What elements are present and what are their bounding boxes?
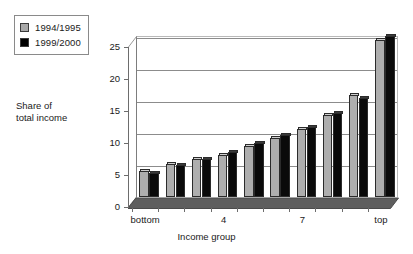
- bar-face: [359, 98, 369, 197]
- bar-face: [176, 165, 186, 197]
- bar-top-cap: [255, 141, 265, 144]
- bar: [297, 129, 307, 197]
- x-axis-tick-label: top: [355, 214, 407, 225]
- bar-face: [333, 113, 343, 197]
- y-axis-tick-mark: [124, 175, 128, 176]
- x-axis-tick-label: 4: [198, 214, 250, 225]
- y-axis-tick-label: 10: [94, 138, 120, 148]
- bar-top-cap: [360, 96, 370, 99]
- bar-top-cap: [177, 163, 187, 166]
- bar-top-cap: [281, 133, 291, 136]
- bar-face: [323, 115, 333, 197]
- bar-face: [202, 159, 212, 197]
- bar-face: [149, 173, 159, 197]
- bar-face: [166, 164, 176, 197]
- y-axis-tick-mark: [124, 47, 128, 48]
- bar: [228, 152, 238, 197]
- x-axis-tick-mark: [368, 208, 369, 212]
- bar-top-cap: [350, 93, 360, 96]
- bar: [349, 95, 359, 197]
- bar: [307, 127, 317, 197]
- bar-face: [297, 129, 307, 197]
- y-axis-tick-label: 20: [94, 74, 120, 84]
- bar: [280, 135, 290, 197]
- bar-face: [244, 146, 254, 197]
- y-axis-tick-label: 25: [94, 42, 120, 52]
- bar-face: [218, 155, 228, 197]
- x-axis-tick-mark: [237, 208, 238, 212]
- bar-series-container: [136, 36, 398, 200]
- bar-chart: 0510152025 bottom47top Income group: [0, 0, 413, 254]
- bar: [323, 115, 333, 197]
- x-axis-tick-label: bottom: [119, 214, 171, 225]
- bar-face: [270, 138, 280, 197]
- bar: [192, 159, 202, 197]
- bar-top-cap: [229, 150, 239, 153]
- bar: [166, 164, 176, 197]
- bar-face: [385, 36, 395, 197]
- y-axis-tick-mark: [124, 79, 128, 80]
- bar-top-cap: [150, 171, 160, 174]
- bar-top-cap: [203, 157, 213, 160]
- bar-face: [307, 127, 317, 197]
- y-axis-tick-mark: [124, 143, 128, 144]
- bar-face: [139, 171, 149, 197]
- bar-face: [254, 143, 264, 197]
- bar: [385, 36, 395, 197]
- bar-top-cap: [386, 34, 396, 37]
- x-axis-tick-mark: [342, 208, 343, 212]
- x-axis-tick-mark: [289, 208, 290, 212]
- x-axis-tick-mark: [184, 208, 185, 212]
- bar: [359, 98, 369, 197]
- x-axis-tick-mark: [158, 208, 159, 212]
- bar: [254, 143, 264, 197]
- bar-face: [349, 95, 359, 197]
- x-axis-tick-mark: [132, 208, 133, 212]
- bar-top-cap: [308, 125, 318, 128]
- y-axis-tick-mark: [124, 207, 128, 208]
- x-axis-tick-label: 7: [276, 214, 328, 225]
- bar: [176, 165, 186, 197]
- y-axis-tick-label: 5: [94, 170, 120, 180]
- y-axis-tick-label: 15: [94, 106, 120, 116]
- x-axis-tick-mark: [315, 208, 316, 212]
- x-axis-tick-mark: [211, 208, 212, 212]
- bar: [139, 171, 149, 197]
- x-axis-title: Income group: [0, 231, 413, 242]
- bar: [202, 159, 212, 197]
- bar-face: [228, 152, 238, 197]
- bar: [333, 113, 343, 197]
- y-axis-tick-label: 0: [94, 202, 120, 212]
- x-axis-tick-mark: [263, 208, 264, 212]
- bar-face: [280, 135, 290, 197]
- bar: [218, 155, 228, 197]
- bar-face: [375, 40, 385, 197]
- bar: [149, 173, 159, 197]
- bar: [244, 146, 254, 197]
- bar: [375, 40, 385, 197]
- bar-face: [192, 159, 202, 197]
- bar-top-cap: [334, 111, 344, 114]
- bar: [270, 138, 280, 197]
- y-axis-tick-mark: [124, 111, 128, 112]
